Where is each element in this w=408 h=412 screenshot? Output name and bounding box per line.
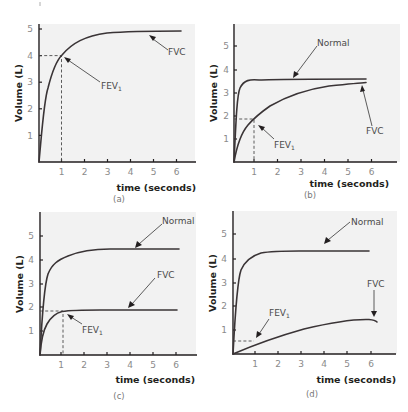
y-tick-label: 5 bbox=[28, 231, 34, 241]
normal-label: Normal bbox=[317, 38, 350, 48]
fvc-label: FVC bbox=[157, 270, 175, 280]
y-tick-label: 1 bbox=[221, 325, 227, 335]
chart-b: 1 2 3 4 5 1 2 3 4 5 6 Volume (L) time (s… bbox=[204, 0, 408, 206]
panel-caption: (a) bbox=[113, 194, 125, 204]
x-tick-label: 1 bbox=[252, 359, 258, 369]
x-tick-label: 6 bbox=[174, 167, 180, 177]
y-tick-label: 2 bbox=[221, 301, 227, 311]
y-tick-label: 5 bbox=[27, 24, 33, 34]
plot-area bbox=[41, 212, 196, 355]
x-tick-label: 4 bbox=[127, 360, 133, 370]
x-axis-title: time (seconds) bbox=[316, 374, 396, 385]
y-tick-label: 3 bbox=[28, 279, 34, 289]
x-tick-label: 2 bbox=[275, 167, 281, 177]
x-tick-label: 1 bbox=[59, 167, 65, 177]
x-tick-label: 6 bbox=[173, 360, 179, 370]
plot-area bbox=[40, 24, 195, 162]
x-tick-label: 5 bbox=[344, 359, 350, 369]
x-tick-label: 5 bbox=[151, 167, 157, 177]
panel-c: 1 2 3 4 5 1 2 3 4 5 6 Volume (L) time (s… bbox=[0, 206, 204, 412]
y-tick-label: 3 bbox=[223, 88, 229, 98]
x-tick-label: 1 bbox=[58, 360, 64, 370]
panel-a: 1 2 3 4 5 1 2 3 4 5 6 Volume (L) time (s… bbox=[0, 0, 204, 206]
panel-d: 1 2 3 4 5 1 2 3 4 5 6 Volume (L) time (s… bbox=[204, 206, 408, 412]
y-tick-label: 3 bbox=[221, 278, 227, 288]
x-tick-label: 2 bbox=[82, 167, 88, 177]
y-tick-label: 5 bbox=[221, 229, 227, 239]
y-tick-label: 4 bbox=[27, 51, 33, 61]
normal-label: Normal bbox=[162, 216, 195, 226]
x-axis-title: time (seconds) bbox=[116, 182, 196, 193]
panel-b: 1 2 3 4 5 1 2 3 4 5 6 Volume (L) time (s… bbox=[204, 0, 408, 206]
y-tick-label: 5 bbox=[223, 41, 229, 51]
x-tick-label: 5 bbox=[150, 360, 156, 370]
x-tick-label: 2 bbox=[275, 359, 281, 369]
x-tick-label: 6 bbox=[368, 359, 374, 369]
y-axis-title: Volume (L) bbox=[13, 64, 24, 122]
y-tick-label: 1 bbox=[223, 134, 229, 144]
normal-label: Normal bbox=[351, 217, 384, 227]
fvc-label: FVC bbox=[168, 47, 186, 57]
x-tick-label: 5 bbox=[345, 167, 351, 177]
panel-caption: (d) bbox=[306, 389, 318, 399]
x-axis-title: time (seconds) bbox=[115, 374, 195, 385]
chart-d: 1 2 3 4 5 1 2 3 4 5 6 Volume (L) time (s… bbox=[204, 206, 408, 412]
panel-caption: (c) bbox=[113, 391, 124, 401]
chart-c: 1 2 3 4 5 1 2 3 4 5 6 Volume (L) time (s… bbox=[0, 206, 204, 412]
panel-caption: (b) bbox=[304, 190, 316, 200]
x-tick-label: 6 bbox=[369, 167, 375, 177]
x-tick-label: 1 bbox=[251, 167, 257, 177]
y-tick-label: 2 bbox=[27, 104, 33, 114]
y-tick-label: 2 bbox=[28, 302, 34, 312]
y-axis-title: Volume (L) bbox=[207, 254, 218, 312]
x-tick-label: 3 bbox=[298, 359, 304, 369]
fvc-label: FVC bbox=[367, 279, 385, 289]
y-tick-label: 3 bbox=[27, 77, 33, 87]
x-tick-label: 3 bbox=[104, 360, 110, 370]
y-tick-label: 4 bbox=[223, 65, 229, 75]
x-tick-label: 4 bbox=[128, 167, 134, 177]
x-tick-label: 3 bbox=[105, 167, 111, 177]
y-tick-label: 1 bbox=[27, 131, 33, 141]
y-tick-label: 2 bbox=[223, 111, 229, 121]
fvc-label: FVC bbox=[366, 126, 384, 136]
chart-a: 1 2 3 4 5 1 2 3 4 5 6 Volume (L) time (s… bbox=[0, 0, 204, 206]
y-tick-label: 4 bbox=[221, 254, 227, 264]
y-axis-title: Volume (L) bbox=[14, 255, 25, 313]
x-tick-label: 2 bbox=[81, 360, 87, 370]
x-tick-label: 4 bbox=[321, 359, 327, 369]
y-tick-label: 4 bbox=[28, 255, 34, 265]
x-axis-title: time (seconds) bbox=[309, 178, 389, 189]
y-tick-label: 1 bbox=[28, 326, 34, 336]
x-tick-label: 4 bbox=[322, 167, 328, 177]
x-tick-label: 3 bbox=[298, 167, 304, 177]
y-axis-title: Volume (L) bbox=[208, 64, 219, 122]
